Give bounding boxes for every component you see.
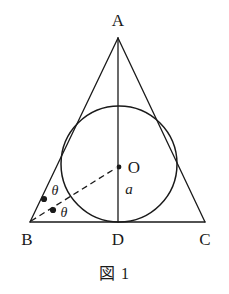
inscribed-circle xyxy=(61,106,177,222)
vertex-label-c: C xyxy=(199,231,210,248)
angle-label-theta-upper: θ xyxy=(52,184,59,198)
angle-label-theta-lower: θ xyxy=(61,206,68,220)
angle-mark-dot-upper xyxy=(41,196,47,202)
angle-mark-dot-lower xyxy=(50,207,56,213)
vertex-label-a: A xyxy=(112,12,124,29)
geometry-figure: A B D C O a θ θ 図 1 xyxy=(0,0,229,294)
center-label-o: O xyxy=(128,159,140,176)
radius-label-a: a xyxy=(125,182,133,197)
vertex-label-d: D xyxy=(112,231,124,248)
vertex-label-b: B xyxy=(21,231,32,248)
center-point-dot xyxy=(117,165,122,170)
figure-caption: 図 1 xyxy=(0,266,229,282)
geometry-diagram xyxy=(0,0,229,294)
